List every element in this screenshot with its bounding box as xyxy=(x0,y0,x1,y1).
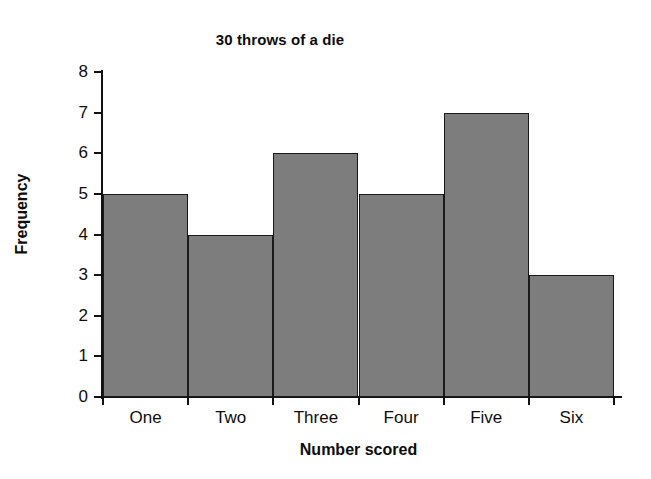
x-axis-title: Number scored xyxy=(103,441,614,459)
y-tick-mark xyxy=(94,396,102,398)
x-tick-label: Six xyxy=(529,408,614,428)
x-tick-label: One xyxy=(103,408,188,428)
x-tick-mark xyxy=(358,396,360,405)
y-tick-label: 1 xyxy=(58,347,88,364)
bar-five xyxy=(444,113,529,397)
bar-four xyxy=(359,194,444,397)
y-tick-mark xyxy=(94,274,102,276)
x-tick-label: Four xyxy=(359,408,444,428)
x-tick-mark xyxy=(528,396,530,405)
bar-chart: 30 throws of a die Frequency 876543210 O… xyxy=(0,0,651,479)
y-tick-mark xyxy=(94,112,102,114)
x-tick-mark xyxy=(102,396,104,405)
x-tick-mark xyxy=(443,396,445,405)
plot-area xyxy=(103,72,614,397)
bar-three xyxy=(273,153,358,397)
y-tick-mark xyxy=(94,71,102,73)
y-tick-label: 2 xyxy=(58,307,88,324)
y-tick-label: 7 xyxy=(58,104,88,121)
chart-title: 30 throws of a die xyxy=(0,31,560,48)
y-tick-label: 3 xyxy=(58,266,88,283)
x-tick-mark xyxy=(613,396,615,405)
bar-six xyxy=(529,275,614,397)
y-tick-mark xyxy=(94,355,102,357)
y-axis-title: Frequency xyxy=(13,144,31,284)
y-tick-label: 0 xyxy=(58,388,88,405)
y-tick-mark xyxy=(94,315,102,317)
bar-one xyxy=(103,194,188,397)
y-tick-label: 4 xyxy=(58,226,88,243)
y-tick-label: 6 xyxy=(58,144,88,161)
x-tick-label: Two xyxy=(188,408,273,428)
y-tick-mark xyxy=(94,152,102,154)
y-tick-label: 8 xyxy=(58,63,88,80)
y-tick-label: 5 xyxy=(58,185,88,202)
x-tick-label: Three xyxy=(273,408,358,428)
y-tick-mark xyxy=(94,193,102,195)
bar-two xyxy=(188,235,273,398)
x-tick-mark xyxy=(272,396,274,405)
y-tick-mark xyxy=(94,234,102,236)
x-tick-label: Five xyxy=(444,408,529,428)
x-tick-mark xyxy=(187,396,189,405)
